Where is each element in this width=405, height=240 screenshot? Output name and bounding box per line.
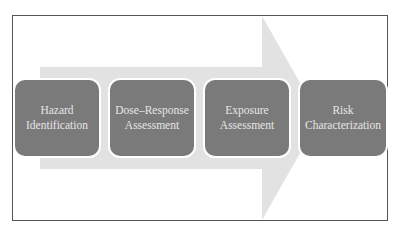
step-hazard-identification: Hazard Identification bbox=[13, 78, 101, 158]
step-label-line2: Assessment bbox=[220, 118, 274, 133]
step-dose-response-assessment: Dose–Response Assessment bbox=[108, 78, 196, 158]
step-label-line1: Dose–Response bbox=[115, 103, 188, 118]
step-label-line2: Identification bbox=[26, 118, 88, 133]
step-label-line2: Characterization bbox=[305, 118, 381, 133]
step-label-line1: Risk bbox=[305, 103, 381, 118]
step-label-line1: Exposure bbox=[220, 103, 274, 118]
step-exposure-assessment: Exposure Assessment bbox=[203, 78, 291, 158]
step-label-line1: Hazard bbox=[26, 103, 88, 118]
step-risk-characterization: Risk Characterization bbox=[298, 78, 388, 158]
step-label-line2: Assessment bbox=[115, 118, 188, 133]
